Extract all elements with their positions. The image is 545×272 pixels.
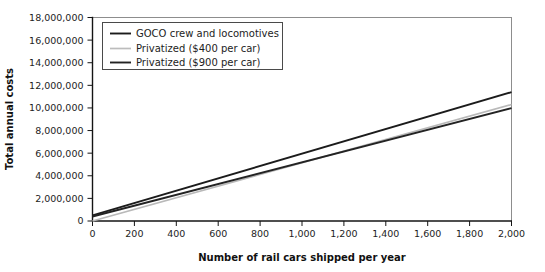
y-tick-label: 8,000,000: [35, 125, 83, 136]
x-tick-label: 800: [251, 228, 269, 239]
x-tick-label: 200: [125, 228, 143, 239]
x-axis-ticks: 02004006008001,0001,2001,4001,6001,8002,…: [89, 221, 525, 239]
line-chart: 02,000,0004,000,0006,000,0008,000,00010,…: [0, 0, 545, 272]
y-tick-label: 16,000,000: [29, 35, 83, 46]
chart-legend: GOCO crew and locomotives Privatized ($4…: [103, 23, 283, 70]
legend-label-privatized-400: Privatized ($400 per car): [136, 43, 260, 54]
x-tick-label: 600: [209, 228, 227, 239]
x-axis-title: Number of rail cars shipped per year: [198, 252, 406, 263]
y-tick-label: 18,000,000: [29, 12, 83, 23]
y-tick-label: 14,000,000: [29, 57, 83, 68]
x-tick-label: 1,600: [414, 228, 441, 239]
legend-label-goco: GOCO crew and locomotives: [136, 28, 279, 39]
y-tick-label: 0: [77, 215, 83, 226]
legend-label-privatized-900: Privatized ($900 per car): [136, 57, 260, 68]
series-line-goco-crew-and-locomotives: [93, 92, 512, 215]
x-tick-label: 2,000: [498, 228, 525, 239]
chart-figure: 02,000,0004,000,0006,000,0008,000,00010,…: [0, 0, 545, 272]
y-tick-label: 6,000,000: [35, 148, 83, 159]
x-tick-label: 1,200: [330, 228, 357, 239]
x-tick-label: 1,400: [372, 228, 399, 239]
y-tick-label: 10,000,000: [29, 102, 83, 113]
y-tick-label: 4,000,000: [35, 170, 83, 181]
x-tick-label: 0: [89, 228, 95, 239]
x-tick-label: 400: [167, 228, 185, 239]
y-axis-title: Total annual costs: [4, 68, 15, 170]
series-line-privatized-900-per-car: [93, 108, 512, 216]
x-tick-label: 1,800: [456, 228, 483, 239]
y-tick-label: 12,000,000: [29, 80, 83, 91]
data-series-group: [93, 92, 512, 221]
x-tick-label: 1,000: [288, 228, 315, 239]
y-tick-label: 2,000,000: [35, 193, 83, 204]
y-axis-ticks: 02,000,0004,000,0006,000,0008,000,00010,…: [29, 12, 92, 227]
